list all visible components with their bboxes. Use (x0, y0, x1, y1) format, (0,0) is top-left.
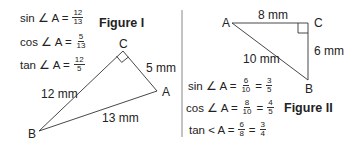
vertex-c-label-2: C (314, 16, 323, 30)
denominator: 13 (72, 18, 83, 26)
vertex-a-label-2: A (222, 16, 230, 30)
denominator: 8 (238, 130, 244, 138)
denominator: 10 (242, 108, 253, 116)
fraction: 610 (240, 77, 251, 94)
denominator: 10 (240, 86, 251, 94)
equation-lhs: cos ∠ A = (186, 101, 238, 115)
vertex-c-label: C (119, 37, 128, 51)
side-bc-label: 12 mm (41, 87, 78, 101)
fraction: 1213 (72, 9, 83, 26)
fraction: 513 (76, 33, 87, 50)
equation-lhs: tan ∠ A = (20, 58, 70, 72)
right-angle-marker-figure-2 (298, 23, 308, 33)
equation-cos-figure-1: cos ∠ A = 513 (20, 33, 88, 50)
equals-sign: = (249, 124, 256, 136)
fraction: 45 (267, 99, 273, 116)
side-cb-label: 6 mm (314, 44, 344, 58)
side-ab-label: 13 mm (102, 111, 139, 125)
fraction: 125 (74, 56, 85, 73)
equals-sign: = (257, 102, 264, 114)
equation-lhs: cos ∠ A = (20, 35, 72, 49)
equation-lhs: sin ∠ A = (188, 79, 236, 93)
side-ca-label: 5 mm (146, 61, 176, 75)
side-ac-label: 8 mm (258, 8, 288, 22)
figure-2-title: Figure II (284, 101, 333, 115)
denominator: 5 (266, 86, 272, 94)
denominator: 13 (76, 42, 87, 50)
vertex-b-label-2: B (305, 82, 313, 96)
denominator: 5 (267, 108, 273, 116)
equation-tan-figure-1: tan ∠ A = 125 (20, 56, 86, 73)
right-angle-marker-figure-1 (117, 56, 129, 62)
fraction: 34 (260, 121, 266, 138)
vertex-b-label: B (28, 127, 36, 141)
fraction: 35 (266, 77, 272, 94)
figure-1-title: Figure I (99, 16, 144, 30)
denominator: 4 (260, 130, 266, 138)
equals-sign: = (255, 80, 262, 92)
equation-cos-figure-2: cos ∠ A = 810 = 45 (186, 99, 275, 116)
fraction: 68 (238, 121, 244, 138)
equation-lhs: sin ∠ A = (20, 11, 68, 25)
vertex-a-label: A (162, 85, 170, 99)
fraction: 810 (242, 99, 253, 116)
denominator: 5 (76, 65, 82, 73)
equation-tan-figure-2: tan < A = 68 = 34 (189, 121, 267, 138)
equation-sin-figure-2: sin ∠ A = 610 = 35 (188, 77, 273, 94)
equation-lhs: tan < A = (189, 124, 234, 136)
equation-sin-figure-1: sin ∠ A = 1213 (20, 9, 84, 26)
side-ab-label-2: 10 mm (243, 52, 280, 66)
